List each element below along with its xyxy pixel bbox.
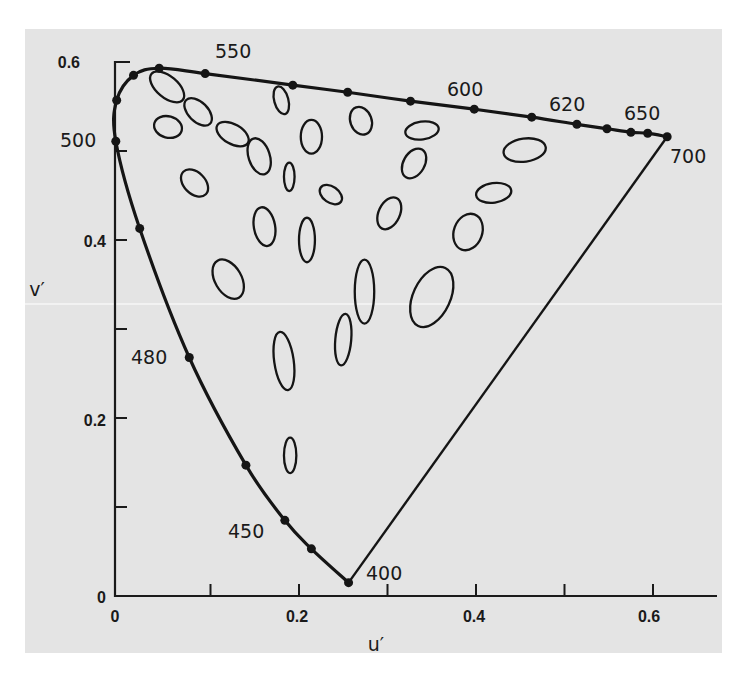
y-tick-label-0.4: 0.4 bbox=[84, 233, 106, 250]
y-tick-label-0.6: 0.6 bbox=[58, 54, 80, 71]
wavelength-label-600: 600 bbox=[447, 78, 483, 100]
wavelength-dot bbox=[129, 71, 138, 80]
wavelength-dot bbox=[280, 516, 289, 525]
wavelength-label-620: 620 bbox=[549, 93, 585, 115]
x-tick-label-0: 0 bbox=[111, 608, 120, 625]
wavelength-dot bbox=[112, 96, 121, 105]
wavelength-label-450: 450 bbox=[228, 520, 264, 542]
figure-background bbox=[25, 29, 722, 653]
y-tick-label-0: 0 bbox=[97, 589, 106, 606]
wavelength-label-480: 480 bbox=[131, 346, 167, 368]
wavelength-dot bbox=[406, 97, 415, 106]
wavelength-dot bbox=[663, 132, 672, 141]
x-tick-label-0.2: 0.2 bbox=[286, 608, 308, 625]
x-tick-label-0.6: 0.6 bbox=[638, 608, 660, 625]
wavelength-dot bbox=[572, 120, 581, 129]
y-axis-label: v′ bbox=[29, 278, 45, 300]
wavelength-label-400: 400 bbox=[366, 562, 402, 584]
wavelength-dot bbox=[241, 461, 250, 470]
wavelength-dot bbox=[343, 88, 352, 97]
y-tick-label-0.2: 0.2 bbox=[84, 412, 106, 429]
wavelength-dot bbox=[111, 137, 120, 146]
wavelength-dot bbox=[344, 578, 353, 587]
chromaticity-diagram: 0 0.2 0.4 0.6 0 0.2 0.4 0.6 u′ v′ 400 45… bbox=[0, 0, 742, 685]
wavelength-dot bbox=[185, 353, 194, 362]
wavelength-dot bbox=[288, 81, 297, 90]
wavelength-dot bbox=[527, 113, 536, 122]
wavelength-dot bbox=[135, 224, 144, 233]
wavelength-label-500: 500 bbox=[60, 129, 96, 151]
wavelength-label-700: 700 bbox=[670, 145, 706, 167]
wavelength-label-650: 650 bbox=[624, 102, 660, 124]
x-axis-label: u′ bbox=[368, 633, 384, 655]
wavelength-dot bbox=[470, 105, 479, 114]
wavelength-dot bbox=[626, 128, 635, 137]
wavelength-dot bbox=[201, 69, 210, 78]
wavelength-dot bbox=[307, 544, 316, 553]
wavelength-label-550: 550 bbox=[215, 40, 251, 62]
wavelength-dot bbox=[602, 124, 611, 133]
wavelength-dot bbox=[643, 129, 652, 138]
x-tick-label-0.4: 0.4 bbox=[463, 608, 485, 625]
